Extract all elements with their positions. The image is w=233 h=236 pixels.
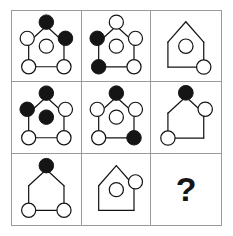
- figure-cell-r1c3: [151, 11, 221, 81]
- node-bottom-left: [22, 60, 36, 74]
- node-left-mid: [90, 103, 104, 117]
- node-center: [39, 110, 54, 125]
- matrix-cell-r2c1[interactable]: [12, 82, 82, 153]
- node-bottom-right: [127, 60, 141, 74]
- node-center: [39, 39, 53, 53]
- matrix-grid: ?: [11, 10, 222, 226]
- node-bottom-left: [91, 60, 106, 75]
- matrix-cell-r2c3[interactable]: [151, 82, 221, 153]
- node-right-mid: [128, 31, 142, 45]
- node-right-mid: [58, 103, 72, 117]
- figure-cell-r2c1: [12, 82, 81, 152]
- figure-cell-r1c2: [82, 11, 151, 81]
- matrix-cell-r2c2[interactable]: [82, 82, 152, 153]
- figure-cell-r2c2: [82, 82, 151, 152]
- node-left-mid: [90, 31, 105, 46]
- node-bottom-left: [161, 131, 175, 145]
- node-bottom-left: [22, 131, 36, 145]
- node-right-mid: [128, 103, 142, 117]
- figure-cell-r3c2: [82, 154, 151, 225]
- node-left-mid: [20, 31, 34, 45]
- node-apex: [109, 86, 124, 101]
- node-center: [179, 39, 193, 53]
- figure-cell-r1c1: [12, 11, 81, 81]
- question-mark: ?: [151, 154, 221, 225]
- matrix-cell-r1c1[interactable]: [12, 11, 82, 82]
- node-bottom-right: [126, 131, 141, 146]
- puzzle-root: ?: [0, 0, 233, 236]
- node-bottom-right: [57, 131, 71, 145]
- node-bottom-right: [57, 203, 71, 217]
- node-center: [109, 39, 123, 53]
- node-left-mid: [20, 102, 35, 117]
- node-bottom-right: [197, 60, 211, 74]
- matrix-cell-r3c1[interactable]: [12, 154, 82, 225]
- node-apex: [39, 86, 54, 101]
- node-bottom-right: [57, 60, 71, 74]
- node-right-mid: [58, 31, 73, 46]
- node-right-mid: [198, 102, 212, 116]
- node-right-mid: [128, 174, 142, 188]
- node-apex: [179, 86, 194, 101]
- matrix-cell-r3c3-answer[interactable]: ?: [151, 154, 221, 225]
- figure-cell-r2c3: [151, 82, 221, 152]
- matrix-cell-r3c2[interactable]: [82, 154, 152, 225]
- node-bottom-left: [91, 131, 105, 145]
- node-apex: [39, 15, 54, 30]
- figure-cell-r3c1: [12, 154, 81, 225]
- node-bottom-left: [22, 203, 36, 217]
- node-center: [109, 110, 123, 124]
- node-apex: [109, 15, 123, 29]
- node-apex: [39, 158, 54, 173]
- node-center: [109, 182, 123, 196]
- matrix-cell-r1c3[interactable]: [151, 11, 221, 82]
- matrix-cell-r1c2[interactable]: [82, 11, 152, 82]
